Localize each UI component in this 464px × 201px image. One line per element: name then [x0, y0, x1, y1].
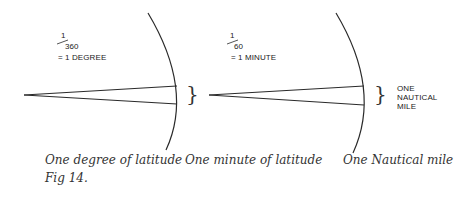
nautical-mile-arc [336, 13, 364, 153]
minute-fraction-numerator: 1 [230, 31, 234, 40]
minute-equals-label: = 1 MINUTE [231, 53, 276, 62]
minute-caption: One minute of latitude [185, 153, 322, 167]
nautical-mile-brace: } [374, 84, 387, 104]
degree-equals-label: = 1 DEGREE [58, 53, 106, 62]
degree-wedge [24, 86, 177, 104]
minute-fraction-denominator: 60 [234, 42, 243, 51]
degree-brace: } [186, 84, 199, 104]
minute-wedge [209, 86, 364, 105]
degree-fraction-numerator: 1 [61, 31, 65, 40]
side-label-line-3: MILE [397, 102, 437, 111]
nautical-mile-side-label: ONE NAUTICAL MILE [397, 84, 437, 111]
degree-caption: One degree of latitude [45, 153, 182, 167]
figure-label: Fig 14. [45, 171, 88, 185]
degree-fraction-denominator: 360 [65, 42, 78, 51]
side-label-line-1: ONE [397, 84, 437, 93]
side-label-line-2: NAUTICAL [397, 93, 437, 102]
degree-arc [148, 13, 177, 150]
nautical-mile-caption: One Nautical mile [343, 153, 453, 167]
